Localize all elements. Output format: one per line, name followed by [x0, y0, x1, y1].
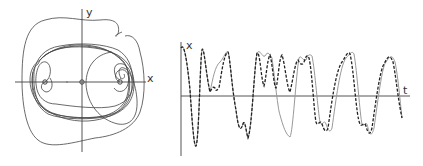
phase-portrait: x y [15, 6, 154, 152]
time-series-plot: x t [181, 39, 410, 156]
figure: x y x t [0, 0, 423, 166]
x-axis-label: x [186, 39, 193, 52]
y-axis-label: y [86, 6, 93, 19]
t-axis-label: t [403, 84, 408, 97]
x-axis-label: x [147, 72, 154, 85]
trajectory [22, 18, 144, 145]
dot [66, 81, 68, 83]
